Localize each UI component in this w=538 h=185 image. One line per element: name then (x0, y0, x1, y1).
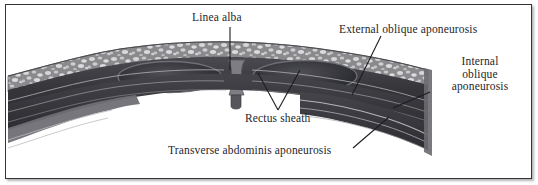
label-rectus-sheath: Rectus sheath (245, 112, 311, 125)
label-linea-alba: Linea alba (192, 11, 242, 24)
label-external-oblique-aponeurosis: External oblique aponeurosis (339, 23, 477, 36)
anatomy-figure: Linea alba External oblique aponeurosis … (0, 0, 538, 185)
label-internal-oblique-line-2: oblique (437, 68, 523, 81)
label-transverse-abdominis-aponeurosis: Transverse abdominis aponeurosis (168, 144, 331, 157)
label-internal-oblique-line-1: Internal (437, 55, 523, 68)
label-internal-oblique-aponeurosis: Internal oblique aponeurosis (437, 55, 523, 93)
label-internal-oblique-line-3: aponeurosis (437, 80, 523, 93)
